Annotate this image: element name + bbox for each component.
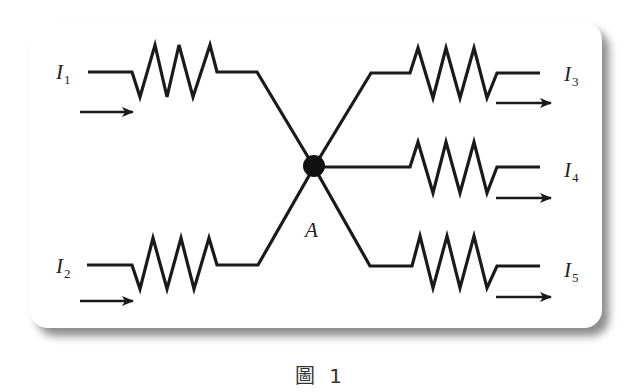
label-current-3: I3: [564, 62, 579, 90]
wire-branch-i5: [314, 167, 540, 288]
wire-branch-i3: [314, 48, 540, 167]
figure-caption: 圖 1: [0, 360, 641, 389]
label-current-5: I5: [564, 258, 579, 286]
label-current-1: I1: [56, 60, 71, 88]
label-current-2: I2: [56, 254, 71, 282]
junction-node-a: [303, 155, 325, 177]
circuit-diagram: [0, 0, 641, 392]
wire-branch-i4: [314, 142, 540, 193]
wire-branch-i2: [87, 167, 314, 289]
wire-branch-i1: [88, 45, 314, 167]
label-node-a: A: [305, 218, 318, 243]
label-current-4: I4: [564, 158, 579, 186]
